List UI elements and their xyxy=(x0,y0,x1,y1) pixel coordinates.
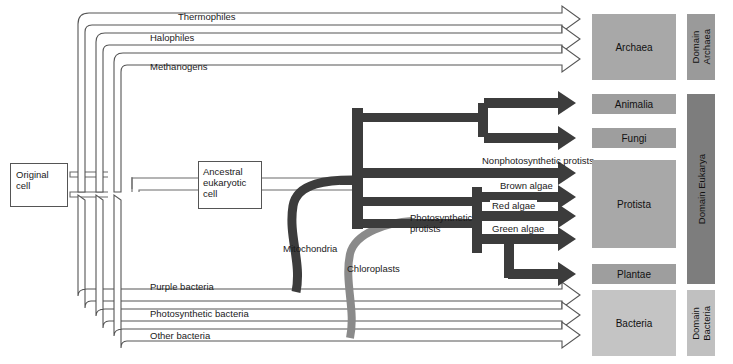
ancestral-eukaryotic-cell-box: Ancestral eukaryotic cell xyxy=(198,161,262,209)
tree-of-life-diagram: .thin { fill:none; stroke:#6b6b6b; strok… xyxy=(0,0,733,364)
kingdom-label-fungi: Fungi xyxy=(621,133,646,144)
branch-label-red-algae: Red algae xyxy=(490,200,537,211)
kingdom-label-bacteria: Bacteria xyxy=(616,318,653,329)
branch-label-nonphotosynthetic-protists: Nonphotosynthetic protists xyxy=(482,155,594,166)
label-mitochondria: Mitochondria xyxy=(283,243,337,254)
branch-label-methanogens: Methanogens xyxy=(150,61,208,72)
kingdom-label-plantae: Plantae xyxy=(617,269,651,280)
label-photosynthetic-protists-line1: Photosynthetic xyxy=(410,212,472,223)
branch-label-purple-bacteria: Purple bacteria xyxy=(150,281,214,292)
original-cell-line1: Original xyxy=(11,164,67,180)
kingdom-label-archaea: Archaea xyxy=(615,42,652,53)
kingdom-box-animalia: Animalia xyxy=(592,94,676,114)
ancestral-cell-line1: Ancestral xyxy=(199,162,261,177)
original-cell-box: Original cell xyxy=(10,163,68,207)
domain-eukarya-label: Domain Eukarya xyxy=(696,154,707,224)
domain-bar-archaea: Domain Archaea xyxy=(687,14,715,80)
kingdom-box-protista: Protista xyxy=(592,160,676,248)
branch-label-photosynthetic-bacteria: Photosynthetic bacteria xyxy=(150,308,249,319)
domain-archaea-line1: Domain xyxy=(690,31,701,64)
label-photosynthetic-protists-line2: protists xyxy=(410,223,441,234)
branch-label-other-bacteria: Other bacteria xyxy=(150,330,210,341)
kingdom-box-archaea: Archaea xyxy=(592,14,676,80)
label-chloroplasts: Chloroplasts xyxy=(347,263,400,274)
domain-bacteria-line2: Bacteria xyxy=(701,306,712,341)
kingdom-box-plantae: Plantae xyxy=(592,264,676,284)
mitochondria-curve xyxy=(292,180,352,292)
domain-bar-eukarya: Domain Eukarya xyxy=(687,94,715,284)
kingdom-label-protista: Protista xyxy=(617,199,651,210)
ancestral-cell-line3: cell xyxy=(199,188,261,199)
kingdom-label-animalia: Animalia xyxy=(615,99,653,110)
branch-label-halophiles: Halophiles xyxy=(150,32,194,43)
branch-label-green-algae: Green algae xyxy=(490,223,546,234)
branch-label-brown-algae: Brown algae xyxy=(500,180,553,191)
branch-label-thermophiles: Thermophiles xyxy=(178,11,236,22)
domain-bacteria-line1: Domain xyxy=(690,307,701,340)
ancestral-cell-line2: eukaryotic xyxy=(199,177,261,188)
kingdom-box-fungi: Fungi xyxy=(592,128,676,148)
kingdom-box-bacteria: Bacteria xyxy=(592,290,676,356)
domain-archaea-line2: Archaea xyxy=(701,29,712,64)
original-cell-line2: cell xyxy=(11,180,67,191)
domain-bar-bacteria: Domain Bacteria xyxy=(687,290,715,356)
